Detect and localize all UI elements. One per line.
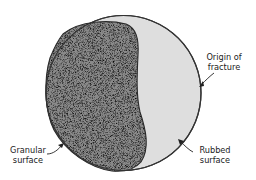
granular-surface-label: Granular surface xyxy=(5,146,51,165)
origin-label-line2: fracture xyxy=(201,63,247,73)
granular-surface-region xyxy=(40,15,155,175)
rubbed-label-line2: surface xyxy=(193,156,237,166)
rubbed-surface-label: Rubbed surface xyxy=(193,146,237,165)
granular-label-line2: surface xyxy=(5,156,51,166)
origin-of-fracture-label: Origin of fracture xyxy=(201,53,247,72)
